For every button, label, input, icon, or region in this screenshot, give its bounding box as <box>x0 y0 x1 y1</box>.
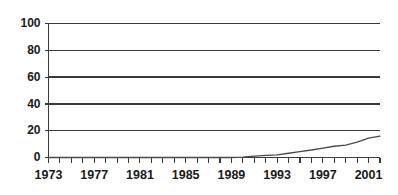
x-tick-label-1973: 1973 <box>35 168 63 182</box>
y-tick-label-0: 0 <box>34 150 41 164</box>
y-tick-label-20: 20 <box>27 123 41 137</box>
x-tick-label-1989: 1989 <box>217 168 245 182</box>
line-chart: 020406080100 197319771981198519891993199… <box>0 0 398 195</box>
x-tick-label-1977: 1977 <box>80 168 108 182</box>
chart-background <box>0 0 398 195</box>
y-tick-label-40: 40 <box>27 97 41 111</box>
x-tick-label-1985: 1985 <box>172 168 200 182</box>
x-tick-label-1997: 1997 <box>309 168 337 182</box>
y-tick-label-100: 100 <box>20 16 40 30</box>
x-tick-label-1993: 1993 <box>263 168 291 182</box>
y-tick-label-60: 60 <box>27 70 41 84</box>
y-tick-label-80: 80 <box>27 43 41 57</box>
x-tick-label-2001: 2001 <box>355 168 383 182</box>
x-tick-label-1981: 1981 <box>126 168 154 182</box>
chart-canvas: 020406080100 197319771981198519891993199… <box>0 0 398 195</box>
